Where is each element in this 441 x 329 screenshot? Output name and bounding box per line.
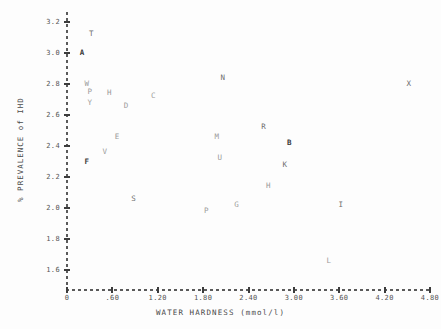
data-point-marker: A (76, 48, 88, 58)
data-point-marker: U (214, 153, 226, 163)
x-tick-label: 2.40 (232, 294, 266, 302)
data-point-marker: G (230, 200, 242, 210)
data-point-marker: E (111, 132, 123, 142)
data-point-marker: P (200, 206, 212, 216)
data-point-marker: C (147, 91, 159, 101)
y-tick-label: 3.0 (34, 49, 60, 57)
x-tick-label: 4.20 (368, 294, 402, 302)
data-point-marker: D (120, 101, 132, 111)
data-point-marker: K (279, 160, 291, 170)
x-tick-label: 3.60 (322, 294, 356, 302)
x-tick-label: 4.80 (413, 294, 441, 302)
y-tick-label: 2.0 (34, 204, 60, 212)
x-tick-label: .60 (95, 294, 129, 302)
data-point-marker: H (262, 181, 274, 191)
data-point-marker: V (99, 147, 111, 157)
scatter-plot-figure: 3.23.02.82.62.42.22.01.81.6 0.601.201.80… (0, 0, 441, 329)
data-point-marker: F (81, 157, 93, 167)
data-point-marker: B (283, 138, 295, 148)
data-point-marker: M (211, 132, 223, 142)
data-point-marker: H (103, 88, 115, 98)
y-tick-label: 2.8 (34, 80, 60, 88)
y-axis-title: % PREVALENCE of IHD (16, 75, 25, 225)
data-point-marker: S (128, 194, 140, 204)
data-point-marker: P (84, 87, 96, 97)
x-tick-label: 1.20 (141, 294, 175, 302)
data-point-marker: Y (84, 98, 96, 108)
data-point-marker: X (403, 79, 415, 89)
x-axis-title: WATER HARDNESS (mmol/l) (0, 308, 441, 317)
data-point-marker: N (217, 73, 229, 83)
plot-area: TAWPYHDCNXEVMRBFUKSHGPIL (67, 12, 430, 290)
data-point-marker: T (85, 29, 97, 39)
x-tick-label: 1.80 (186, 294, 220, 302)
y-tick-label: 2.4 (34, 142, 60, 150)
y-tick-label: 1.6 (34, 266, 60, 274)
data-point-marker: I (335, 200, 347, 210)
x-tick-label: 0 (50, 294, 84, 302)
x-tick-label: 3.00 (277, 294, 311, 302)
y-tick-label: 3.2 (34, 18, 60, 26)
y-tick-label: 2.2 (34, 173, 60, 181)
data-point-marker: R (258, 122, 270, 132)
data-point-marker: L (323, 256, 335, 266)
y-tick-label: 2.6 (34, 111, 60, 119)
y-tick-label: 1.8 (34, 235, 60, 243)
